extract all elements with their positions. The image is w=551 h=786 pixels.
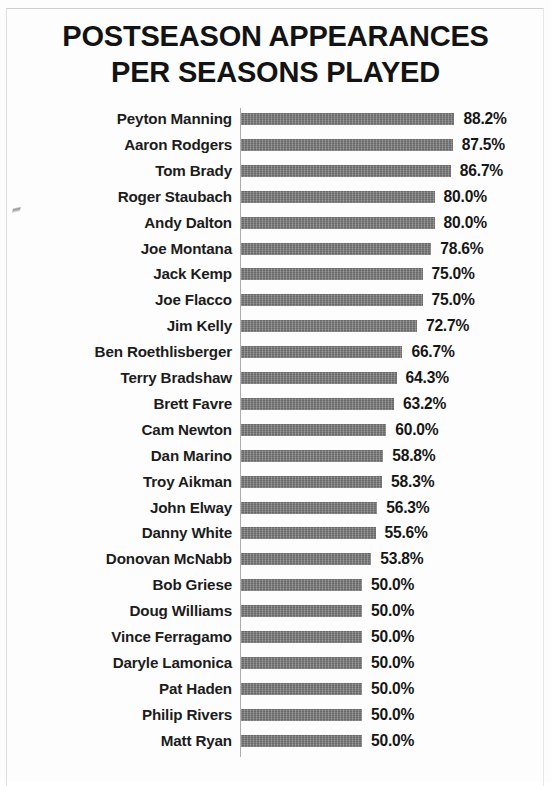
bar-value-label: 50.0% bbox=[371, 624, 414, 650]
table-row: Dan Marino58.8% bbox=[0, 443, 551, 469]
bar-value-label: 50.0% bbox=[371, 598, 414, 624]
bar bbox=[241, 709, 362, 721]
bar-value-label: 50.0% bbox=[371, 572, 414, 598]
table-row: Tom Brady86.7% bbox=[0, 158, 551, 184]
table-row: Philip Rivers50.0% bbox=[0, 702, 551, 728]
bar-track bbox=[241, 469, 501, 495]
bar bbox=[241, 268, 423, 280]
bar-category-label: Jack Kemp bbox=[30, 261, 232, 287]
table-row: Troy Aikman58.3% bbox=[0, 469, 551, 495]
bar-category-label: Daryle Lamonica bbox=[30, 650, 232, 676]
chart-title-line-1: POSTSEASON APPEARANCES bbox=[0, 18, 551, 54]
bar bbox=[241, 450, 383, 462]
bar-track bbox=[241, 495, 501, 521]
bar-category-label: Joe Montana bbox=[30, 236, 232, 262]
table-row: Joe Montana78.6% bbox=[0, 236, 551, 262]
bar-value-label: 75.0% bbox=[432, 287, 475, 313]
table-row: Cam Newton60.0% bbox=[0, 417, 551, 443]
table-row: Aaron Rodgers87.5% bbox=[0, 132, 551, 158]
bar-category-label: Aaron Rodgers bbox=[30, 132, 232, 158]
table-row: Pat Haden50.0% bbox=[0, 676, 551, 702]
bar-value-label: 88.2% bbox=[463, 106, 506, 132]
bar-category-label: Terry Bradshaw bbox=[30, 365, 232, 391]
bar-value-label: 50.0% bbox=[371, 650, 414, 676]
bar-value-label: 64.3% bbox=[406, 365, 449, 391]
table-row: Matt Ryan50.0% bbox=[0, 728, 551, 754]
bar bbox=[241, 294, 423, 306]
bar bbox=[241, 683, 362, 695]
bar-value-label: 55.6% bbox=[385, 520, 428, 546]
bar-value-label: 50.0% bbox=[371, 728, 414, 754]
bar-value-label: 78.6% bbox=[440, 236, 483, 262]
bar bbox=[241, 502, 377, 514]
bar-category-label: Joe Flacco bbox=[30, 287, 232, 313]
bar-value-label: 80.0% bbox=[444, 210, 487, 236]
bar-category-label: Andy Dalton bbox=[30, 210, 232, 236]
bar-value-label: 66.7% bbox=[411, 339, 454, 365]
table-row: Jim Kelly72.7% bbox=[0, 313, 551, 339]
bar-category-label: Brett Favre bbox=[30, 391, 232, 417]
bar bbox=[241, 605, 362, 617]
bar bbox=[241, 243, 431, 255]
bar-category-label: Donovan McNabb bbox=[30, 546, 232, 572]
table-row: Joe Flacco75.0% bbox=[0, 287, 551, 313]
table-row: Daryle Lamonica50.0% bbox=[0, 650, 551, 676]
bar bbox=[241, 527, 376, 539]
bar-value-label: 75.0% bbox=[432, 261, 475, 287]
bar bbox=[241, 424, 386, 436]
bar bbox=[241, 113, 454, 125]
bar-value-label: 72.7% bbox=[426, 313, 469, 339]
bar-track bbox=[241, 443, 501, 469]
bar bbox=[241, 735, 362, 747]
bar-category-label: Bob Griese bbox=[30, 572, 232, 598]
bar-track bbox=[241, 520, 501, 546]
table-row: Doug Williams50.0% bbox=[0, 598, 551, 624]
bar-category-label: Matt Ryan bbox=[30, 728, 232, 754]
bar-category-label: Dan Marino bbox=[30, 443, 232, 469]
bar-value-label: 58.8% bbox=[392, 443, 435, 469]
bar-category-label: Vince Ferragamo bbox=[30, 624, 232, 650]
table-row: Donovan McNabb53.8% bbox=[0, 546, 551, 572]
bar-value-label: 60.0% bbox=[395, 417, 438, 443]
table-row: Jack Kemp75.0% bbox=[0, 261, 551, 287]
table-row: Vince Ferragamo50.0% bbox=[0, 624, 551, 650]
bar-category-label: Philip Rivers bbox=[30, 702, 232, 728]
bar-value-label: 58.3% bbox=[391, 469, 434, 495]
table-row: Brett Favre63.2% bbox=[0, 391, 551, 417]
bar-value-label: 80.0% bbox=[444, 184, 487, 210]
bar-value-label: 63.2% bbox=[403, 391, 446, 417]
bar bbox=[241, 476, 382, 488]
bar bbox=[241, 372, 397, 384]
bar bbox=[241, 217, 435, 229]
bar-track bbox=[241, 339, 501, 365]
table-row: Danny White55.6% bbox=[0, 520, 551, 546]
bar bbox=[241, 579, 362, 591]
bar bbox=[241, 346, 402, 358]
bar-track bbox=[241, 417, 501, 443]
table-row: Roger Staubach80.0% bbox=[0, 184, 551, 210]
chart-title-line-2: PER SEASONS PLAYED bbox=[0, 54, 551, 90]
bar bbox=[241, 191, 435, 203]
bar-category-label: John Elway bbox=[30, 495, 232, 521]
bar-category-label: Danny White bbox=[30, 520, 232, 546]
bar-value-label: 87.5% bbox=[462, 132, 505, 158]
bar-track bbox=[241, 391, 501, 417]
bar-value-label: 50.0% bbox=[371, 676, 414, 702]
bar-category-label: Cam Newton bbox=[30, 417, 232, 443]
bar-value-label: 86.7% bbox=[460, 158, 503, 184]
bar-category-label: Peyton Manning bbox=[30, 106, 232, 132]
table-row: Ben Roethlisberger66.7% bbox=[0, 339, 551, 365]
bar-category-label: Doug Williams bbox=[30, 598, 232, 624]
bar bbox=[241, 165, 451, 177]
bar-value-label: 53.8% bbox=[380, 546, 423, 572]
bar-track bbox=[241, 106, 501, 132]
bar-track bbox=[241, 365, 501, 391]
bar-category-label: Roger Staubach bbox=[30, 184, 232, 210]
table-row: Andy Dalton80.0% bbox=[0, 210, 551, 236]
table-row: Terry Bradshaw64.3% bbox=[0, 365, 551, 391]
horizontal-bar-chart: Peyton Manning88.2%Aaron Rodgers87.5%Tom… bbox=[0, 106, 551, 766]
table-row: Bob Griese50.0% bbox=[0, 572, 551, 598]
bar-track bbox=[241, 546, 501, 572]
bar-category-label: Tom Brady bbox=[30, 158, 232, 184]
bar bbox=[241, 139, 453, 151]
